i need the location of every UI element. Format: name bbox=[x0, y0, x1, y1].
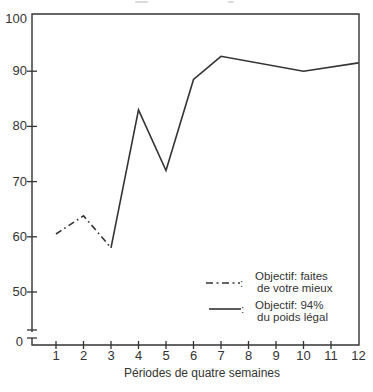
plot-border bbox=[32, 14, 359, 345]
legend-line-2: du poids légal bbox=[255, 312, 328, 324]
series-solid-line bbox=[111, 56, 359, 248]
legend-line-1: Objectif: 94% bbox=[255, 300, 328, 312]
legend-item-dash-dot-label: Objectif: faites de votre mieux bbox=[255, 271, 332, 294]
legend-separator: : bbox=[240, 277, 243, 289]
legend-separator: : bbox=[241, 303, 244, 315]
series-dash-dot-line bbox=[56, 216, 111, 248]
goal-setting-line-chart: 10090807060500123456789101112 Périodes d… bbox=[0, 0, 373, 392]
legend-item-solid-label: Objectif: 94% du poids légal bbox=[255, 300, 328, 323]
legend-line-1: Objectif: faites bbox=[255, 271, 332, 283]
cropped-text-fragment bbox=[228, 1, 234, 3]
legend-line-2: de votre mieux bbox=[255, 283, 332, 295]
chart-canvas bbox=[0, 0, 373, 392]
cropped-text-fragment bbox=[135, 1, 148, 3]
x-axis-title: Périodes de quatre semaines bbox=[52, 366, 352, 380]
